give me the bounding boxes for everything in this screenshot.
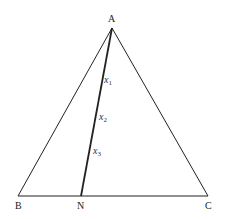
vertex-label-a: A	[108, 14, 115, 24]
label-x2: x2	[99, 112, 107, 124]
side-AC	[112, 28, 208, 196]
diagram-canvas: A B C N x1 x2 x3	[0, 0, 226, 219]
side-AB	[18, 28, 112, 196]
vertex-label-b: B	[15, 201, 22, 211]
vertex-label-c: C	[205, 201, 212, 211]
triangle-figure	[0, 0, 226, 219]
cevian-AN	[81, 28, 112, 196]
point-label-n: N	[77, 201, 84, 211]
label-x1: x1	[104, 75, 112, 87]
label-x3: x3	[93, 146, 101, 158]
